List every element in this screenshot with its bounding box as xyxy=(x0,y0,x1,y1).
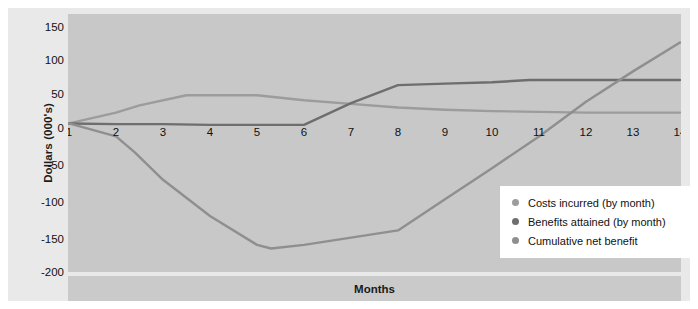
x-tick-label: 2 xyxy=(113,126,119,138)
legend-label: Costs incurred (by month) xyxy=(528,197,655,209)
y-tick-label: 50 xyxy=(20,88,64,100)
x-tick-label: 9 xyxy=(442,126,448,138)
x-axis-title: Months xyxy=(354,283,395,295)
x-axis-title-band: Months xyxy=(68,276,681,301)
x-tick-label: 13 xyxy=(627,126,640,138)
y-tick-label: -200 xyxy=(20,266,64,278)
y-tick-label: 0 xyxy=(20,122,64,134)
x-tick-label: 8 xyxy=(395,126,401,138)
data-series-line xyxy=(69,80,680,125)
x-tick-label: 3 xyxy=(160,126,166,138)
legend-item-cumulative-net-benefit: Cumulative net benefit xyxy=(510,232,680,249)
legend-marker-icon xyxy=(512,218,519,225)
x-tick-label: 12 xyxy=(580,126,593,138)
x-tick-label: 11 xyxy=(533,126,545,138)
y-tick-label: 150 xyxy=(20,21,64,33)
legend-item-costs-incurred: Costs incurred (by month) xyxy=(510,194,680,211)
x-tick-label: 10 xyxy=(486,126,499,138)
legend-label: Benefits attained (by month) xyxy=(528,216,666,228)
x-tick-label: 6 xyxy=(301,126,307,138)
y-tick-label: 100 xyxy=(20,54,64,66)
x-tick-label: 1 xyxy=(68,126,72,138)
y-tick-label: -50 xyxy=(20,159,64,171)
legend-item-benefits-attained: Benefits attained (by month) xyxy=(510,213,680,230)
chart-figure: Dollars (000's) 150 100 50 0 -50 -100 -1… xyxy=(0,0,698,309)
legend-label: Cumulative net benefit xyxy=(528,235,637,247)
y-tick-label: -100 xyxy=(20,196,64,208)
legend-marker-icon xyxy=(512,199,519,206)
chart-legend: Costs incurred (by month) Benefits attai… xyxy=(500,186,690,258)
x-tick-label: 7 xyxy=(348,126,354,138)
y-tick-label: -150 xyxy=(20,233,64,245)
x-tick-label: 5 xyxy=(254,126,260,138)
x-tick-label: 14 xyxy=(674,126,681,138)
legend-marker-icon xyxy=(512,237,519,244)
x-tick-label: 4 xyxy=(207,126,213,138)
y-axis-tick-labels: 150 100 50 0 -50 -100 -150 -200 xyxy=(14,0,64,309)
